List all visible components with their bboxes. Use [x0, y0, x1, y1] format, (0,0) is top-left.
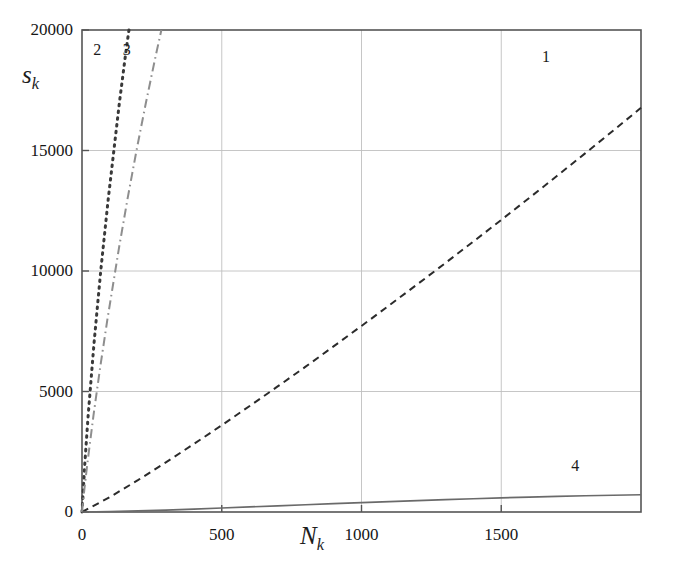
- curve-label-3: 3: [123, 42, 131, 58]
- chart-figure: sk Nk 05000100001500020000 050010001500 …: [0, 0, 673, 577]
- curve-label-1: 1: [542, 49, 550, 65]
- x-tick-label: 500: [182, 526, 262, 543]
- x-tick-label: 1500: [461, 526, 541, 543]
- x-axis-label: Nk: [300, 523, 324, 554]
- plot-canvas: [0, 0, 673, 577]
- grid-lines: [82, 30, 641, 512]
- y-tick-label: 0: [65, 503, 74, 520]
- curve-label-4: 4: [571, 458, 579, 474]
- y-tick-label: 15000: [31, 142, 74, 159]
- x-tick-label: 0: [42, 526, 122, 543]
- y-axis-label-main: s: [22, 61, 32, 88]
- curve-label-2: 2: [93, 42, 101, 58]
- x-tick-label: 1000: [322, 526, 402, 543]
- y-tick-label: 20000: [31, 21, 74, 38]
- y-axis-label: sk: [22, 62, 39, 93]
- y-tick-label: 10000: [31, 262, 74, 279]
- y-tick-label: 5000: [39, 383, 73, 400]
- y-axis-label-subscript: k: [32, 74, 39, 93]
- x-axis-label-main: N: [300, 522, 317, 549]
